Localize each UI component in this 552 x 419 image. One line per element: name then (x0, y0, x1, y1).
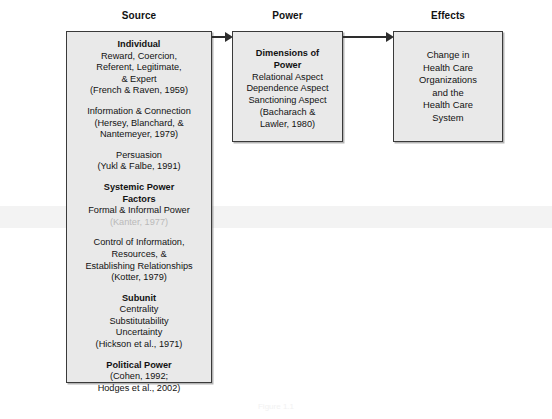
arrow-shaft (212, 36, 226, 38)
group-line: and the (397, 87, 499, 100)
source-box: Individual Reward, Coercion, Referent, L… (66, 31, 212, 383)
arrow-shaft (343, 36, 387, 38)
group-line: Dependence Aspect (236, 83, 339, 95)
group-heading: Systemic Power (70, 182, 208, 194)
group-line: Sanctioning Aspect (236, 95, 339, 107)
figure-caption: Figure 1.1 (0, 402, 552, 411)
power-box-inner: Dimensions of Power Relational Aspect De… (233, 32, 342, 131)
group-citation: (Bacharach & (236, 107, 339, 119)
group-line: Health Care (397, 62, 499, 75)
source-group-persuasion: Persuasion (Yukl & Falbe, 1991) (67, 150, 211, 173)
source-group-systemic-power-factors: Systemic Power Factors Formal & Informal… (67, 182, 211, 228)
group-citation-cont: Hodges et al., 2002) (70, 383, 208, 395)
group-heading: Dimensions of (236, 48, 339, 60)
group-line: Uncertainty (70, 327, 208, 339)
group-line: Relational Aspect (236, 72, 339, 84)
group-heading-cont: Power (236, 60, 339, 72)
group-line: Reward, Coercion, (70, 51, 208, 63)
group-line: Control of Information, (70, 237, 208, 249)
diagram-canvas: Source Power Effects Individual Reward, … (0, 0, 552, 419)
arrow-source-to-power (212, 32, 234, 42)
group-citation: (Cohen, 1992; (70, 371, 208, 383)
group-citation: (Kotter, 1979) (70, 272, 208, 284)
arrow-power-to-effects (343, 32, 395, 42)
group-citation-cont: Lawler, 1980) (236, 119, 339, 131)
group-line: System (397, 112, 499, 125)
source-group-individual: Individual Reward, Coercion, Referent, L… (67, 39, 211, 97)
power-box: Dimensions of Power Relational Aspect De… (232, 31, 343, 142)
group-line: Change in (397, 49, 499, 62)
group-citation: (French & Raven, 1959) (70, 85, 208, 97)
group-line: Referent, Legitimate, (70, 62, 208, 74)
column-label-source: Source (66, 10, 212, 21)
power-group-dimensions: Dimensions of Power Relational Aspect De… (233, 48, 342, 131)
group-line: Information & Connection (70, 106, 208, 118)
group-line: Organizations (397, 74, 499, 87)
effects-box: Change in Health Care Organizations and … (393, 31, 503, 142)
group-line: Establishing Relationships (70, 261, 208, 273)
column-label-effects: Effects (393, 10, 503, 21)
group-line: Formal & Informal Power (70, 205, 208, 217)
group-line: Resources, & (70, 249, 208, 261)
source-group-political-power: Political Power (Cohen, 1992; Hodges et … (67, 360, 211, 395)
group-line: & Expert (70, 74, 208, 86)
group-citation-cont: Nantemeyer, 1979) (70, 129, 208, 141)
group-citation: (Yukl & Falbe, 1991) (70, 161, 208, 173)
group-heading: Individual (70, 39, 208, 51)
group-heading-cont: Factors (70, 194, 208, 206)
source-group-control-of-information: Control of Information, Resources, & Est… (67, 237, 211, 283)
effects-box-inner: Change in Health Care Organizations and … (394, 32, 502, 125)
group-line: Persuasion (70, 150, 208, 162)
group-line: Substitutability (70, 316, 208, 328)
effects-group-change: Change in Health Care Organizations and … (394, 49, 502, 125)
group-line: Centrality (70, 304, 208, 316)
group-heading: Political Power (70, 360, 208, 372)
source-group-information-connection: Information & Connection (Hersey, Blanch… (67, 106, 211, 141)
source-group-subunit: Subunit Centrality Substitutability Unce… (67, 293, 211, 351)
group-line: Health Care (397, 99, 499, 112)
group-citation: (Hersey, Blanchard, & (70, 118, 208, 130)
group-heading: Subunit (70, 293, 208, 305)
group-citation: (Hickson et al., 1971) (70, 339, 208, 351)
column-label-power: Power (232, 10, 343, 21)
group-citation: (Kanter, 1977) (70, 217, 208, 229)
